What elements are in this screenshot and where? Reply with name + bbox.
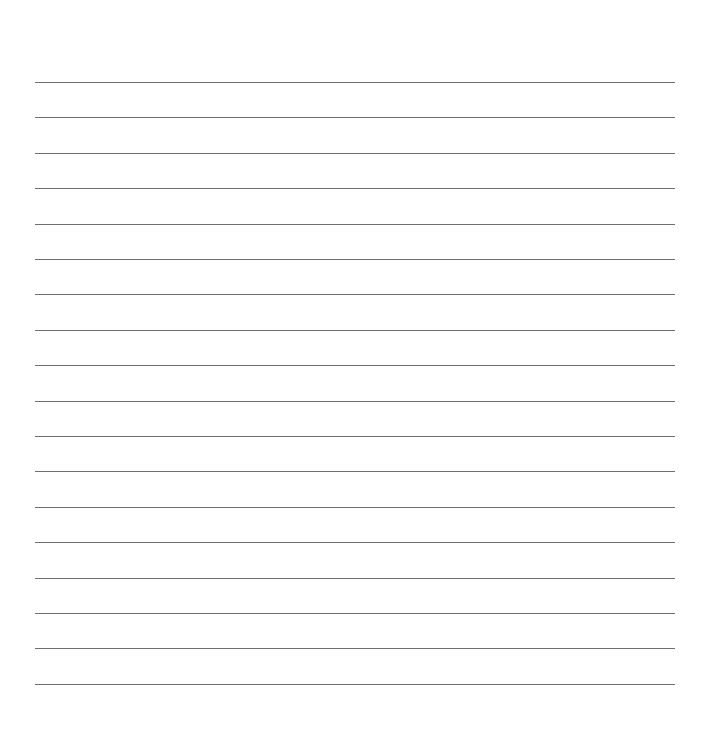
ruled-line (35, 330, 675, 331)
ruled-line (35, 613, 675, 614)
ruled-line (35, 188, 675, 189)
ruled-line (35, 436, 675, 437)
ruled-line (35, 82, 675, 83)
ruled-line (35, 294, 675, 295)
ruled-line (35, 117, 675, 118)
ruled-line (35, 471, 675, 472)
ruled-line (35, 578, 675, 579)
ruled-line (35, 153, 675, 154)
ruled-line (35, 507, 675, 508)
ruled-line (35, 401, 675, 402)
ruled-line (35, 648, 675, 649)
ruled-line (35, 224, 675, 225)
ruled-line (35, 259, 675, 260)
ruled-line (35, 542, 675, 543)
ruled-line (35, 365, 675, 366)
ruled-line (35, 684, 675, 685)
lined-paper-sheet (0, 0, 701, 733)
